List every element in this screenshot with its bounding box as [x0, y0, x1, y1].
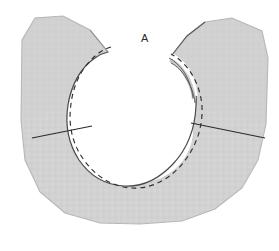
neck-opening	[87, 76, 193, 182]
piece-label-a: A	[141, 33, 149, 44]
pattern-canvas: A	[0, 0, 279, 251]
pattern-drawing	[0, 0, 279, 251]
